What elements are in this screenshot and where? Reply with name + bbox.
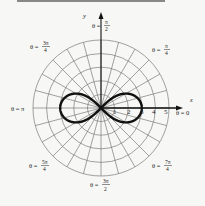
label-7pi-over-4-num: 7π	[165, 159, 171, 165]
y-axis-label: y	[82, 12, 87, 20]
ring-label-5: 5	[164, 108, 168, 116]
ring-label-4: 4	[152, 108, 156, 116]
label-7pi-over-4-den: 4	[166, 166, 169, 172]
ring-label-2: 2	[127, 108, 131, 116]
svg-text:θ =: θ =	[92, 22, 101, 29]
svg-text:θ =: θ =	[90, 181, 99, 188]
top-border	[17, 0, 165, 2]
label-pi-over-4-den: 4	[165, 50, 168, 56]
svg-text:θ =: θ =	[152, 162, 161, 169]
polar-grid: y x 1 2 3 4 5 θ = π 2 θ = π 4 θ = 3π 4	[0, 0, 205, 206]
label-pi-over-4-num: π	[165, 43, 168, 49]
label-5pi-over-4-num: 5π	[42, 159, 48, 165]
label-zero: θ = 0	[176, 109, 189, 116]
svg-text:θ =: θ =	[30, 43, 39, 50]
polar-graph-figure: y x 1 2 3 4 5 θ = π 2 θ = π 4 θ = 3π 4	[0, 0, 205, 206]
ring-label-3: 3	[140, 108, 144, 116]
label-pi-over-2-den: 2	[105, 26, 108, 32]
label-pi-over-2-num: π	[105, 19, 108, 25]
svg-text:θ =: θ =	[152, 46, 161, 53]
ring-label-1: 1	[113, 108, 117, 116]
svg-text:θ =: θ =	[29, 162, 38, 169]
label-5pi-over-4-den: 4	[43, 166, 46, 172]
label-3pi-over-2-den: 2	[104, 186, 107, 192]
label-3pi-over-4-num: 3π	[43, 40, 49, 46]
label-3pi-over-4-den: 4	[44, 47, 47, 53]
x-axis-label: x	[189, 97, 193, 103]
label-pi: θ = π	[11, 105, 25, 112]
label-3pi-over-2-num: 3π	[103, 178, 109, 184]
